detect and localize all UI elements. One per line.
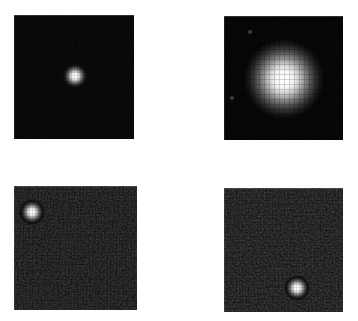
noise-texture [224, 188, 343, 312]
noise-texture [14, 186, 137, 310]
image-panel-bottom-left[interactable] [14, 186, 137, 310]
figure-root [0, 0, 358, 321]
image-panel-top-right[interactable] [224, 16, 343, 140]
image-panel-top-left[interactable] [14, 15, 134, 139]
noise-texture [224, 16, 343, 140]
image-panel-bottom-right[interactable] [224, 188, 343, 312]
noise-texture [14, 15, 134, 139]
